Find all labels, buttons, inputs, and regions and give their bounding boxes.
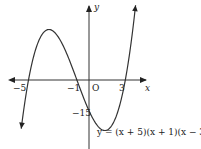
origin-label: O [92, 83, 99, 93]
tick-label-neg5: −5 [13, 83, 27, 93]
tick-label-3: 3 [119, 83, 125, 93]
equation-label: y = (x + 5)(x + 1)(x − 3) [96, 127, 201, 137]
cubic-graph: y x O −5 −1 3 −15 y = (x + 5)(x + 1)(x −… [0, 0, 201, 149]
tick-label-neg15: −15 [72, 108, 91, 118]
curve-bottom-arrow-icon [19, 122, 25, 128]
y-axis-label: y [93, 2, 100, 12]
x-axis-label: x [145, 83, 150, 93]
tick-label-neg1: −1 [67, 83, 80, 93]
